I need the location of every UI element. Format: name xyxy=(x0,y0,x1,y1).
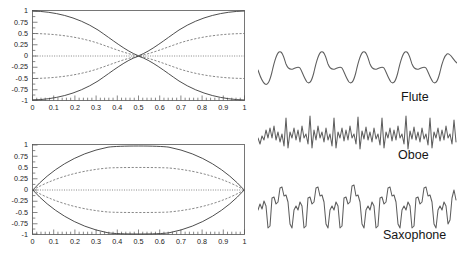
waveform-label-flute: Flute xyxy=(401,90,429,104)
curve-upper-solid xyxy=(33,146,244,190)
figure-canvas: 1 0.75 0.5 0.25 0 -0.25 -0.5 -0.75 -1 xyxy=(0,0,457,262)
y-tick-label: -1 xyxy=(22,230,28,239)
chart-bowtie-envelope: 1 0.75 0.5 0.25 0 -0.25 -0.5 -0.75 -1 xyxy=(0,0,258,124)
x-axis-tick-labels: 0 0.1 0.2 0.3 0.4 0.5 0.6 0.7 0.8 0.9 1 xyxy=(31,237,247,246)
x-tick-label: 0.5 xyxy=(134,237,144,246)
y-tick-label: -0.5 xyxy=(16,74,28,83)
y-tick-label: 0.5 xyxy=(18,29,28,38)
x-tick-label: 0.4 xyxy=(112,237,122,246)
waveform-saxophone-trace xyxy=(258,185,456,228)
y-tick-label: 0.25 xyxy=(14,174,28,183)
x-tick-label: 0.2 xyxy=(70,103,80,112)
y-tick-label: -0.75 xyxy=(12,85,28,94)
x-tick-label: 0.5 xyxy=(134,103,144,112)
x-axis-ticks xyxy=(33,96,245,101)
y-tick-label: 0.75 xyxy=(14,152,28,161)
x-axis-tick-labels: 0 0.1 0.2 0.3 0.4 0.5 0.6 0.7 0.8 0.9 1 xyxy=(31,103,247,112)
curve-group xyxy=(33,11,245,100)
x-tick-label: 0.6 xyxy=(155,103,165,112)
y-tick-label: 0.25 xyxy=(14,40,28,49)
y-axis-ticks xyxy=(33,11,38,100)
y-tick-label: -0.5 xyxy=(16,208,28,217)
x-tick-label: 0.7 xyxy=(176,237,186,246)
y-tick-label: -0.25 xyxy=(12,196,28,205)
y-tick-label: 1 xyxy=(24,6,28,15)
y-tick-label: -1 xyxy=(22,96,28,105)
y-axis-tick-labels: 1 0.75 0.5 0.25 0 -0.25 -0.5 -0.75 -1 xyxy=(12,140,28,239)
x-tick-label: 0.9 xyxy=(218,237,228,246)
y-axis-tick-labels: 1 0.75 0.5 0.25 0 -0.25 -0.5 -0.75 -1 xyxy=(12,6,28,105)
x-tick-label: 0.9 xyxy=(218,103,228,112)
x-tick-label: 0.4 xyxy=(112,103,122,112)
x-tick-label: 0.1 xyxy=(49,237,59,246)
y-tick-label: -0.25 xyxy=(12,62,28,71)
y-tick-label: 0.75 xyxy=(14,18,28,27)
x-tick-label: 0 xyxy=(31,237,35,246)
curve-group xyxy=(33,146,244,234)
waveform-label-saxophone: Saxophone xyxy=(383,228,446,242)
y-tick-label: 1 xyxy=(24,140,28,149)
plot-frame xyxy=(33,145,245,235)
curve-upper-dashed xyxy=(33,34,245,57)
x-tick-label: 0.8 xyxy=(197,103,207,112)
curve-lower-dashed xyxy=(33,190,244,213)
curve-lower-solid xyxy=(33,190,244,234)
x-tick-label: 0.8 xyxy=(197,237,207,246)
curve-upper-solid xyxy=(33,11,245,56)
x-tick-label: 0.7 xyxy=(176,103,186,112)
x-tick-label: 0.3 xyxy=(91,103,101,112)
y-tick-label: 0 xyxy=(24,185,28,194)
x-tick-label: 0.6 xyxy=(155,237,165,246)
x-tick-label: 0 xyxy=(31,103,35,112)
waveform-oboe-trace xyxy=(258,116,456,149)
x-tick-label: 0.3 xyxy=(91,237,101,246)
curve-lower-dashed xyxy=(33,56,245,79)
chart-lens-envelope: 1 0.75 0.5 0.25 0 -0.25 -0.5 -0.75 -1 xyxy=(0,131,258,262)
x-tick-label: 1 xyxy=(243,237,247,246)
y-tick-label: 0 xyxy=(24,51,28,60)
waveform-flute-trace xyxy=(258,52,457,85)
waveform-label-oboe: Oboe xyxy=(398,148,429,162)
y-tick-label: -0.75 xyxy=(12,219,28,228)
x-tick-label: 0.2 xyxy=(70,237,80,246)
x-tick-label: 0.1 xyxy=(49,103,59,112)
x-tick-label: 1 xyxy=(243,103,247,112)
curve-upper-dashed xyxy=(33,167,244,190)
y-tick-label: 0.5 xyxy=(18,163,28,172)
curve-lower-solid xyxy=(33,56,245,100)
